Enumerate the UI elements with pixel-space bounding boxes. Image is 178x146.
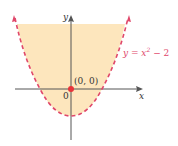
origin-label: 0 [63,91,69,101]
y-axis-label: y [62,12,69,22]
x-axis-label: x [139,91,144,101]
y-axis-arrow-icon [68,15,74,22]
origin-point [68,86,74,92]
equation-label: y = x2 − 2 [122,46,169,58]
curve-right-arrow-icon [127,15,131,22]
parabola-region-figure: (0, 0) 0 x y y = x2 − 2 [0,0,178,146]
point-label: (0, 0) [74,76,98,86]
